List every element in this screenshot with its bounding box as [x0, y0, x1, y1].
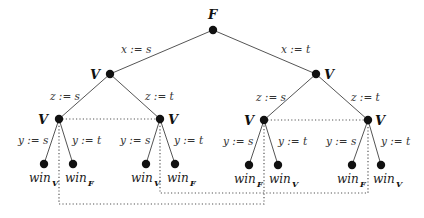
win-subscript: F: [256, 179, 264, 189]
win-text: win: [65, 171, 87, 185]
node-ll: [55, 115, 63, 123]
root-player-label: F: [207, 7, 218, 22]
leaf-node: [69, 160, 77, 168]
win-text: win: [29, 171, 51, 185]
information-set-lines: [59, 119, 368, 204]
info-set-outer-link: [59, 119, 264, 204]
player-label: V: [90, 67, 102, 82]
leaf-node: [377, 161, 385, 169]
node-lr: [156, 115, 164, 123]
edge-label: y := s: [119, 134, 151, 146]
win-subscript: V: [396, 179, 403, 189]
root-node: [209, 26, 217, 34]
edge-label: x := t: [281, 43, 311, 55]
leaf-outcome: win V: [269, 172, 299, 189]
win-subscript: V: [52, 178, 59, 188]
leaf-outcome: win F: [167, 171, 197, 188]
player-label: V: [168, 112, 180, 127]
win-text: win: [373, 172, 395, 186]
leaf-outcome: win V: [373, 172, 403, 189]
leaf-node: [171, 160, 179, 168]
edge-label: z := s: [49, 90, 81, 102]
node-l: [106, 70, 114, 78]
edge-label: x := s: [121, 43, 152, 55]
leaf-node: [40, 160, 48, 168]
win-text: win: [131, 171, 153, 185]
leaf-outcome: win F: [65, 171, 95, 188]
leaf-outcome: win F: [337, 172, 367, 189]
edge-ll-leaf2: [59, 119, 73, 164]
win-text: win: [337, 172, 359, 186]
leaf-outcome: win V: [131, 171, 161, 188]
edge-label: y := t: [277, 135, 308, 147]
leaf-node: [274, 161, 282, 169]
player-label: V: [38, 112, 50, 127]
edge-label: y := s: [325, 135, 357, 147]
win-subscript: F: [359, 179, 367, 189]
leaf-outcome: win V: [29, 171, 59, 188]
win-subscript: V: [292, 179, 299, 189]
leaf-outcome: win F: [234, 172, 264, 189]
edge-label: y := t: [380, 135, 411, 147]
win-text: win: [269, 172, 291, 186]
leaf-node: [245, 161, 253, 169]
player-label: V: [324, 67, 336, 82]
leaf-node: [142, 160, 150, 168]
edge-label: y := s: [17, 134, 49, 146]
edge-label: y := s: [222, 135, 254, 147]
leaf-node: [348, 161, 356, 169]
edge-rl-leaf2: [264, 120, 278, 165]
win-subscript: F: [87, 178, 95, 188]
edge-label: y := t: [173, 134, 204, 146]
game-tree-canvas: F V V V V V V x := s x := t z := s z := …: [0, 0, 424, 218]
win-text: win: [234, 172, 256, 186]
edge-label: y := t: [71, 134, 102, 146]
win-subscript: F: [189, 178, 197, 188]
node-r: [312, 70, 320, 78]
edge-label: z := s: [255, 91, 287, 103]
tree-nodes: [40, 26, 385, 169]
edge-label: z := t: [144, 90, 175, 102]
player-label: V: [244, 113, 256, 128]
node-rr: [364, 116, 372, 124]
edge-label: z := t: [350, 91, 381, 103]
player-label: V: [375, 113, 387, 128]
win-subscript: V: [154, 178, 161, 188]
node-rl: [260, 116, 268, 124]
game-tree-diagram: F V V V V V V x := s x := t z := s z := …: [0, 0, 424, 218]
win-text: win: [167, 171, 189, 185]
